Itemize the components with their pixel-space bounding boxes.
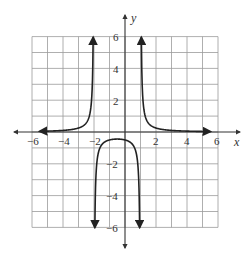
y-axis-label: y <box>130 11 137 25</box>
y-tick-label: 2 <box>113 95 119 107</box>
y-tick-label: 4 <box>113 63 119 75</box>
y-tick-label: −6 <box>106 222 118 234</box>
y-tick-label: 6 <box>113 31 119 43</box>
x-tick-label: −4 <box>58 135 70 147</box>
function-graph: x y −6 −4 −2 2 4 6 6 4 2 −2 −4 −6 <box>0 0 251 258</box>
y-tick-label: −2 <box>106 158 118 170</box>
x-tick-label: 6 <box>214 135 220 147</box>
x-axis-label: x <box>233 135 240 149</box>
x-tick-label: −6 <box>27 135 39 147</box>
x-tick-label: −2 <box>89 135 101 147</box>
x-tick-label: 4 <box>184 135 190 147</box>
x-tick-label: 2 <box>153 135 159 147</box>
curve-middle-branch <box>95 139 140 227</box>
y-tick-label: −4 <box>106 190 118 202</box>
